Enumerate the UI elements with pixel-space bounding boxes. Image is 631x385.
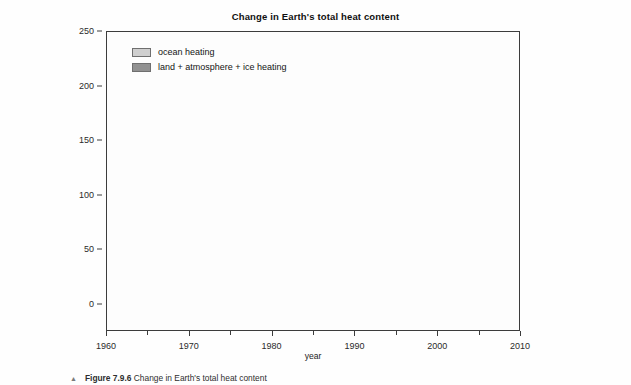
legend-swatch-ocean-heating: [132, 48, 151, 57]
y-tick-mark-200: [97, 85, 102, 86]
legend-label-land-atmosphere-ice-heating: land + atmosphere + ice heating: [158, 62, 287, 72]
x-tick-mark-1980: [272, 331, 273, 336]
x-tick-mark-1970: [189, 331, 190, 336]
caption-label: Figure 7.9.6: [85, 373, 132, 383]
y-axis: change in total heat content since 1961 …: [60, 31, 102, 331]
figure-caption: ▲Figure 7.9.6 Change in Earth's total he…: [70, 373, 610, 383]
y-tick-label-200: 200: [79, 81, 94, 91]
figure-root: Change in Earth's total heat content cha…: [0, 0, 631, 385]
x-tick-mark-2000: [437, 331, 438, 336]
chart-legend: ocean heating land + atmosphere + ice he…: [132, 47, 287, 72]
plot-frame: [106, 31, 520, 331]
chart-title: Change in Earth's total heat content: [0, 11, 631, 22]
y-tick-mark-150: [97, 140, 102, 141]
plot-area: [106, 31, 520, 331]
legend-item-land-atmosphere-ice-heating: land + atmosphere + ice heating: [132, 62, 287, 72]
legend-swatch-land-atmosphere-ice-heating: [132, 63, 151, 72]
x-tick-label-2010: 2010: [510, 341, 530, 351]
x-tick-mark-minor-2005: [479, 331, 480, 335]
x-tick-mark-minor-1965: [147, 331, 148, 335]
y-tick-label-50: 50: [84, 244, 94, 254]
y-tick-mark-250: [97, 31, 102, 32]
x-tick-label-1960: 1960: [96, 341, 116, 351]
x-tick-mark-minor-1985: [313, 331, 314, 335]
y-tick-label-100: 100: [79, 190, 94, 200]
legend-label-ocean-heating: ocean heating: [158, 47, 215, 57]
y-tick-label-0: 0: [89, 299, 94, 309]
caption-bullet-icon: ▲: [70, 375, 77, 382]
x-tick-mark-1990: [354, 331, 355, 336]
x-tick-label-1980: 1980: [262, 341, 282, 351]
y-tick-label-150: 150: [79, 135, 94, 145]
x-axis-title: year: [106, 351, 520, 361]
y-tick-mark-100: [97, 194, 102, 195]
x-tick-mark-1960: [106, 331, 107, 336]
x-tick-mark-minor-1995: [396, 331, 397, 335]
x-tick-label-1990: 1990: [344, 341, 364, 351]
y-tick-label-250: 250: [79, 26, 94, 36]
x-tick-mark-minor-1975: [230, 331, 231, 335]
y-tick-mark-50: [97, 249, 102, 250]
x-tick-mark-2010: [520, 331, 521, 336]
x-tick-label-2000: 2000: [427, 341, 447, 351]
y-tick-mark-0: [97, 303, 102, 304]
x-tick-label-1970: 1970: [179, 341, 199, 351]
caption-text: Change in Earth's total heat content: [134, 373, 267, 383]
legend-item-ocean-heating: ocean heating: [132, 47, 287, 57]
